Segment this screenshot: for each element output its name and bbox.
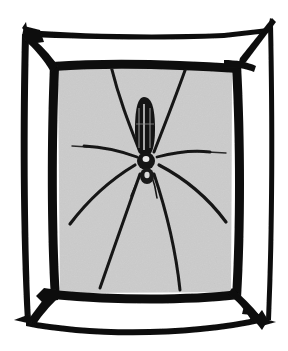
abdomen-body — [135, 97, 155, 157]
spider-illustration — [0, 0, 288, 351]
spinneret-highlight — [144, 172, 149, 178]
artwork-root: Spider in a rectangular frame — [0, 0, 288, 351]
cephalothorax-highlight — [143, 156, 150, 162]
spider-spinnerets — [140, 168, 154, 184]
spider-abdomen — [135, 97, 155, 157]
spider-cephalothorax — [137, 152, 155, 170]
